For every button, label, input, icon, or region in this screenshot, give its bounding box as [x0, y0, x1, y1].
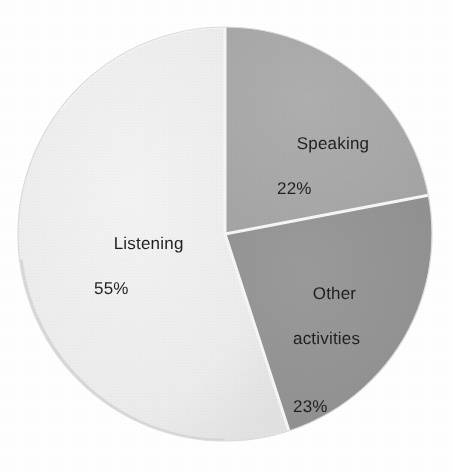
pie-label-listening-value: 55% [94, 278, 184, 300]
pie-label-listening: Listening 55% [94, 211, 184, 346]
pie-chart-canvas [0, 0, 453, 472]
pie-label-speaking: Speaking 22% [277, 111, 369, 246]
pie-label-listening-name: Listening [114, 234, 184, 253]
pie-label-other-activities-name-line1: Other [313, 284, 357, 303]
pie-label-other-activities-value: 23% [293, 396, 360, 418]
pie-label-speaking-name: Speaking [297, 134, 370, 153]
pie-label-other-activities: Other activities 23% [293, 261, 360, 463]
pie-chart: Speaking 22% Listening 55% Other activit… [0, 0, 453, 472]
pie-label-speaking-value: 22% [277, 178, 369, 200]
pie-label-other-activities-name-line2: activities [293, 328, 360, 350]
